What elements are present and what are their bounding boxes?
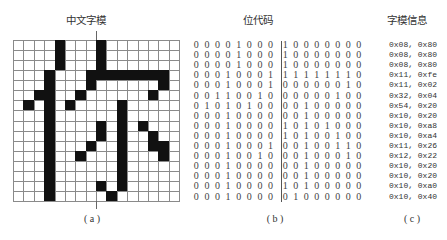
- filled-cell: [158, 141, 168, 151]
- filled-cell: [158, 70, 168, 80]
- empty-cell: [23, 161, 33, 171]
- byte-separator-line: [281, 41, 282, 202]
- filled-cell: [86, 141, 96, 151]
- empty-cell: [65, 161, 75, 171]
- empty-cell: [86, 100, 96, 110]
- filled-cell: [158, 80, 168, 90]
- filled-cell: [44, 141, 54, 151]
- empty-cell: [127, 80, 137, 90]
- bit-digit: 1: [334, 91, 342, 101]
- empty-cell: [148, 121, 158, 131]
- empty-cell: [34, 141, 44, 151]
- empty-cell: [117, 60, 127, 70]
- filled-cell: [96, 50, 106, 60]
- empty-cell: [75, 181, 85, 191]
- filled-cell: [44, 110, 54, 120]
- empty-cell: [127, 191, 137, 201]
- empty-cell: [96, 80, 106, 90]
- bit-digit: 1: [224, 181, 232, 191]
- empty-cell: [148, 191, 158, 201]
- empty-cell: [65, 70, 75, 80]
- bit-digit: 0: [214, 181, 222, 191]
- empty-cell: [23, 131, 33, 141]
- empty-cell: [158, 110, 168, 120]
- empty-cell: [13, 70, 23, 80]
- empty-cell: [75, 121, 85, 131]
- empty-cell: [106, 181, 116, 191]
- filled-cell: [117, 131, 127, 141]
- empty-cell: [13, 90, 23, 100]
- bit-digit: 0: [355, 91, 363, 101]
- empty-cell: [86, 151, 96, 161]
- empty-cell: [96, 151, 106, 161]
- bit-digit: 1: [344, 80, 352, 90]
- empty-cell: [158, 100, 168, 110]
- empty-cell: [86, 50, 96, 60]
- hex-code-row: 0x32, 0x04: [389, 91, 437, 101]
- empty-cell: [86, 110, 96, 120]
- hex-code-row: 0x12, 0x22: [389, 151, 437, 161]
- empty-cell: [148, 40, 158, 50]
- empty-cell: [23, 121, 33, 131]
- filled-cell: [44, 70, 54, 80]
- bit-digit: 0: [245, 91, 253, 101]
- empty-cell: [75, 50, 85, 60]
- empty-cell: [65, 40, 75, 50]
- empty-cell: [13, 80, 23, 90]
- bit-digit: 0: [323, 91, 331, 101]
- bit-digit: 0: [302, 80, 310, 90]
- filled-cell: [55, 60, 65, 70]
- bit-digit: 1: [224, 80, 232, 90]
- filled-cell: [55, 40, 65, 50]
- empty-cell: [138, 90, 148, 100]
- empty-cell: [138, 131, 148, 141]
- filled-cell: [44, 191, 54, 201]
- filled-cell: [75, 90, 85, 100]
- empty-cell: [23, 171, 33, 181]
- character-bitmap-grid: [13, 40, 180, 202]
- filled-cell: [106, 191, 116, 201]
- empty-cell: [169, 40, 179, 50]
- empty-cell: [13, 141, 23, 151]
- bit-digit: 0: [323, 181, 331, 191]
- empty-cell: [44, 60, 54, 70]
- bit-digit: 0: [313, 80, 321, 90]
- empty-cell: [169, 171, 179, 181]
- empty-cell: [65, 191, 75, 201]
- empty-cell: [127, 100, 137, 110]
- bit-digit: 0: [235, 192, 243, 202]
- empty-cell: [13, 40, 23, 50]
- bit-digit: 1: [281, 181, 289, 191]
- empty-cell: [96, 171, 106, 181]
- bit-digit: 0: [192, 80, 200, 90]
- empty-cell: [106, 80, 116, 90]
- empty-cell: [23, 181, 33, 191]
- empty-cell: [86, 90, 96, 100]
- filled-cell: [148, 131, 158, 141]
- empty-cell: [55, 151, 65, 161]
- hex-code-row: 0x08, 0x80: [389, 60, 437, 70]
- bit-digit: 0: [281, 80, 289, 90]
- empty-cell: [158, 131, 168, 141]
- bit-digit: 0: [245, 181, 253, 191]
- empty-cell: [75, 60, 85, 70]
- bit-digit: 0: [334, 192, 342, 202]
- filled-cell: [117, 121, 127, 131]
- bit-digit: 0: [281, 91, 289, 101]
- empty-cell: [117, 90, 127, 100]
- filled-cell: [86, 80, 96, 90]
- empty-cell: [23, 191, 33, 201]
- empty-cell: [96, 90, 106, 100]
- bit-digit: 0: [245, 80, 253, 90]
- empty-cell: [169, 181, 179, 191]
- empty-cell: [86, 40, 96, 50]
- hex-code-row: 0x08, 0x80: [389, 50, 437, 60]
- empty-cell: [148, 151, 158, 161]
- hex-code-row: 0x10, 0xa4: [389, 131, 437, 141]
- filled-cell: [44, 80, 54, 90]
- empty-cell: [106, 60, 116, 70]
- empty-cell: [169, 60, 179, 70]
- empty-cell: [106, 90, 116, 100]
- empty-cell: [34, 131, 44, 141]
- empty-cell: [138, 191, 148, 201]
